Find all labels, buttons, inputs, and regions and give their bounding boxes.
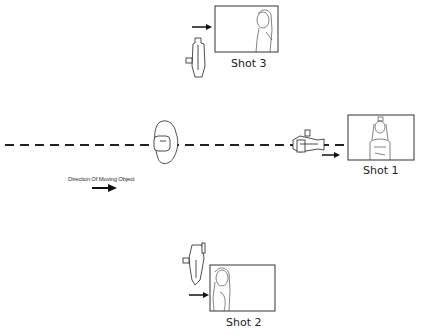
camera-1-icon bbox=[293, 130, 324, 152]
shot3-label: Shot 3 bbox=[231, 57, 267, 70]
shot3-frame bbox=[215, 6, 278, 52]
shot1-label: Shot 1 bbox=[363, 164, 399, 177]
direction-arrow-icon bbox=[92, 184, 117, 192]
moving-object-icon bbox=[154, 121, 178, 164]
arrow-shot1-icon bbox=[322, 152, 340, 158]
camera-2-icon bbox=[183, 243, 205, 285]
arrow-shot2-icon bbox=[189, 292, 209, 298]
shot1-frame bbox=[348, 115, 414, 160]
direction-label: Direction Of Moving Object bbox=[68, 176, 135, 182]
shot2-label: Shot 2 bbox=[226, 316, 262, 329]
camera-3-icon bbox=[186, 38, 205, 77]
shot2-frame bbox=[210, 265, 275, 311]
arrow-shot3-icon bbox=[192, 24, 212, 30]
